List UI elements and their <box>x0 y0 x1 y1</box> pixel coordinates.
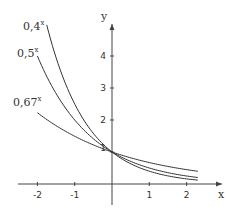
y-tick-label: 2 <box>100 115 106 125</box>
y-tick-label: 4 <box>100 51 106 61</box>
y-tick-label: 3 <box>100 83 106 93</box>
x-tick-label: -2 <box>33 190 42 200</box>
x-tick-label: -1 <box>70 190 79 200</box>
exponential-chart: x y -2-1121234 0,4x 0,5x 0,67x <box>0 0 227 213</box>
y-axis-arrow-icon <box>110 24 115 30</box>
label-0-4x: 0,4x <box>23 19 45 33</box>
label-0-67x: 0,67x <box>13 95 42 109</box>
curve-0-67 <box>37 113 197 172</box>
curve-labels: 0,4x 0,5x 0,67x <box>13 19 45 109</box>
x-tick-label: 2 <box>184 190 190 200</box>
x-tick-label: 1 <box>146 190 152 200</box>
axes: x y <box>18 10 225 205</box>
x-axis-label: x <box>218 188 225 201</box>
y-axis-label: y <box>100 10 108 23</box>
curves <box>37 25 197 180</box>
curve-0-4 <box>47 25 198 180</box>
label-0-5x: 0,5x <box>17 46 39 60</box>
x-axis-arrow-icon <box>216 182 222 187</box>
